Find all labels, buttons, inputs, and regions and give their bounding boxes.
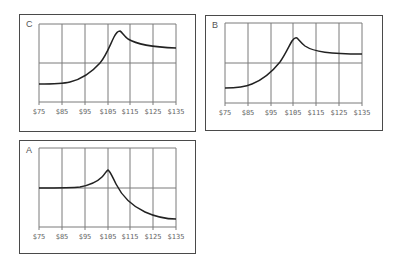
svg-text:$95: $95 <box>79 108 92 116</box>
charts-canvas: $75 $85 $95 $105 $115 $125 $135 $75 $85 … <box>0 0 402 267</box>
svg-text:$125: $125 <box>145 108 162 116</box>
svg-text:$85: $85 <box>56 108 69 116</box>
svg-text:$105: $105 <box>100 233 117 241</box>
svg-text:$75: $75 <box>219 109 232 117</box>
grid-a <box>39 148 176 230</box>
x-axis-ticks-b: $75 $85 $95 $105 $115 $125 $135 <box>219 109 371 117</box>
svg-text:$125: $125 <box>331 109 348 117</box>
svg-text:$95: $95 <box>79 233 92 241</box>
svg-text:$135: $135 <box>168 108 185 116</box>
svg-text:$85: $85 <box>242 109 255 117</box>
svg-text:$75: $75 <box>33 233 46 241</box>
svg-text:$85: $85 <box>56 233 69 241</box>
svg-text:$105: $105 <box>100 108 117 116</box>
x-axis-ticks-c: $75 $85 $95 $105 $115 $125 $135 <box>33 108 185 116</box>
svg-text:$115: $115 <box>308 109 325 117</box>
x-axis-ticks-a: $75 $85 $95 $105 $115 $125 $135 <box>33 233 185 241</box>
svg-text:$75: $75 <box>33 108 46 116</box>
svg-text:$135: $135 <box>168 233 185 241</box>
svg-text:$135: $135 <box>354 109 371 117</box>
grid-b <box>225 23 362 106</box>
svg-text:$95: $95 <box>265 109 278 117</box>
grid-c <box>39 24 176 105</box>
svg-text:$115: $115 <box>122 233 139 241</box>
svg-text:$105: $105 <box>285 109 302 117</box>
svg-text:$115: $115 <box>122 108 139 116</box>
svg-text:$125: $125 <box>145 233 162 241</box>
